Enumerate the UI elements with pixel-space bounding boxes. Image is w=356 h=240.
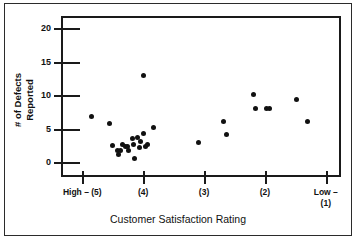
x-axis-tick-label: Low –(1) xyxy=(314,187,338,209)
x-axis-tick xyxy=(143,171,145,184)
data-point xyxy=(141,131,146,136)
x-axis-tick-label-line: Low – xyxy=(314,187,338,198)
scatter-plot-figure: Reported # of Defects 05101520 High – (5… xyxy=(0,0,356,240)
data-point xyxy=(267,106,272,111)
x-axis-tick xyxy=(265,171,267,184)
data-points-layer xyxy=(63,18,339,175)
y-axis-tick: 10 xyxy=(54,95,80,97)
data-point xyxy=(126,148,131,153)
x-axis-tick-label: High – (5) xyxy=(63,187,102,198)
data-point xyxy=(253,106,258,111)
y-axis-tick: 20 xyxy=(54,28,80,30)
x-axis-tick-label-line: (2) xyxy=(260,187,270,198)
data-point xyxy=(89,114,94,119)
data-point xyxy=(221,119,226,124)
data-point xyxy=(110,143,115,148)
data-point xyxy=(141,73,146,78)
x-axis-tick-label: (2) xyxy=(260,187,270,198)
data-point xyxy=(294,97,299,102)
y-axis-tick-label: 5 xyxy=(46,124,51,135)
x-axis-tick-label: (3) xyxy=(199,187,209,198)
data-point xyxy=(107,121,112,126)
y-axis-tick-label: 20 xyxy=(41,23,51,34)
y-axis-tick: 0 xyxy=(54,162,80,164)
data-point xyxy=(131,142,136,147)
x-axis-tick xyxy=(82,171,84,184)
y-axis-tick-label: 0 xyxy=(46,157,51,168)
x-axis-title: Customer Satisfaction Rating xyxy=(0,213,356,225)
data-point xyxy=(305,119,310,124)
data-point xyxy=(151,125,156,130)
x-axis-tick xyxy=(204,171,206,184)
y-axis-title-line-1: # of Defects xyxy=(12,73,24,127)
x-axis-tick-label-line: (3) xyxy=(199,187,209,198)
data-point xyxy=(132,156,137,161)
x-axis-tick-label: (4) xyxy=(138,187,148,198)
x-axis-tick xyxy=(326,171,328,184)
data-point xyxy=(138,139,143,144)
y-axis-tick: 15 xyxy=(54,62,80,64)
x-axis-tick-label-line: (1) xyxy=(314,198,338,209)
y-axis-tick-label: 10 xyxy=(41,90,51,101)
x-axis-tick-label-line: (4) xyxy=(138,187,148,198)
y-axis-title: Reported # of Defects xyxy=(4,54,44,146)
data-point xyxy=(224,132,229,137)
data-point xyxy=(118,148,123,153)
data-point xyxy=(137,145,142,150)
data-point xyxy=(145,142,150,147)
y-axis-title-line-2: Reported xyxy=(24,73,36,127)
x-axis-tick-label-line: High – (5) xyxy=(63,187,102,198)
plot-area: 05101520 xyxy=(61,16,341,177)
data-point xyxy=(196,140,201,145)
y-axis-tick: 5 xyxy=(54,129,80,131)
y-axis-tick-label: 15 xyxy=(41,57,51,68)
data-point xyxy=(251,92,256,97)
